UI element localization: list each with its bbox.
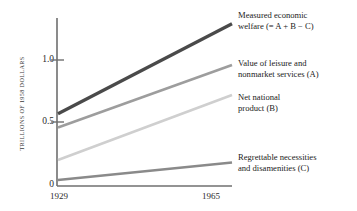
series-line-leisure-a [58,65,232,128]
legend-label-regrettables-line1: Regrettable necessities [238,152,357,163]
legend-label-regrettables-line2: and disamenities (C) [238,163,357,174]
legend-entry-nnp-b: Net national product (B) [238,92,357,113]
series-line-nnp-b [58,95,232,160]
legend-label-nnp-line2: product (B) [238,103,357,114]
legend-label-leisure-line2: nonmarket services (A) [238,69,357,80]
legend-label-nnp-line1: Net national [238,92,357,103]
legend-label-leisure-line1: Value of leisure and [238,58,357,69]
series-line-mew [58,24,232,114]
legend-entry-leisure-a: Value of leisure and nonmarket services … [238,58,357,79]
chart-figure: TRILLIONS OF 1958 DOLLARS 1.0 0.5 0 1929… [0,0,357,211]
legend-entry-regrettables-c: Regrettable necessities and disamenities… [238,152,357,173]
series-line-regrettables-c [58,163,232,181]
legend-label-mew-line1: Measured economic [238,10,357,21]
legend-label-mew-line2: welfare (= A + B − C) [238,21,357,32]
legend-entry-mew: Measured economic welfare (= A + B − C) [238,10,357,31]
